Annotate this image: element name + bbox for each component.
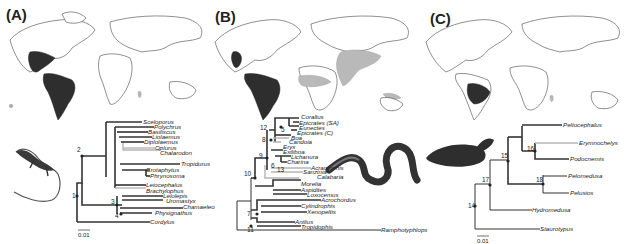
svg-text:0.01: 0.01 — [78, 232, 90, 238]
world-map-b — [215, 16, 408, 120]
svg-text:Epicrates (C): Epicrates (C) — [297, 129, 333, 136]
svg-text:1: 1 — [72, 192, 76, 199]
svg-text:Calabaria: Calabaria — [317, 173, 344, 180]
svg-text:Peltocephalus: Peltocephalus — [563, 121, 602, 128]
turtle-illustration-icon — [426, 138, 494, 166]
svg-text:Physignathus: Physignathus — [155, 209, 192, 216]
world-map-a — [9, 12, 202, 120]
panel-b-figure: 5 6 7 8 9 10 11 12 13 Corallus Epicrates… — [211, 0, 422, 244]
svg-text:7: 7 — [247, 210, 251, 217]
svg-text:Hydromedusa: Hydromedusa — [532, 206, 571, 213]
svg-text:5: 5 — [281, 126, 285, 133]
panel-a-figure: 1 2 3 4 Sceloporus Polychrus Basiliscus … — [0, 0, 211, 244]
svg-text:10: 10 — [244, 170, 252, 177]
svg-text:6: 6 — [271, 162, 275, 169]
svg-text:Staurotypus: Staurotypus — [540, 225, 573, 232]
phylogeny-tree-a: 1 2 3 4 Sceloporus Polychrus Basiliscus … — [72, 118, 215, 238]
svg-text:Ramphotyphlops: Ramphotyphlops — [381, 226, 427, 233]
svg-text:0.01: 0.01 — [477, 238, 489, 244]
svg-text:15: 15 — [501, 152, 509, 159]
svg-text:4: 4 — [115, 212, 119, 219]
svg-text:8: 8 — [262, 136, 266, 143]
svg-text:Charina: Charina — [287, 158, 309, 165]
svg-text:11: 11 — [247, 226, 254, 233]
svg-text:3: 3 — [111, 198, 115, 205]
panel-c-figure: 14 15 16 17 18 Peltocephalus Erymnochely… — [422, 0, 633, 244]
svg-text:18: 18 — [536, 176, 544, 183]
svg-text:Phrynosoma: Phrynosoma — [150, 172, 185, 179]
galapagos-dot-icon — [9, 104, 13, 108]
svg-text:9: 9 — [259, 152, 263, 159]
svg-text:14: 14 — [468, 202, 476, 209]
panel-b: (B) — [211, 0, 422, 244]
svg-text:Chalarodon: Chalarodon — [160, 149, 193, 156]
svg-text:Xenopeltis: Xenopeltis — [306, 208, 336, 215]
svg-text:16: 16 — [527, 145, 535, 152]
svg-text:Erymnochelys: Erymnochelys — [579, 139, 618, 146]
world-map-c — [426, 16, 619, 120]
svg-text:17: 17 — [482, 176, 490, 183]
svg-text:Pelomedusa: Pelomedusa — [568, 172, 603, 179]
panel-a: (A) — [0, 0, 211, 244]
panel-c: (C) — [422, 0, 633, 244]
svg-text:12: 12 — [260, 124, 268, 131]
svg-text:13: 13 — [277, 166, 285, 173]
svg-text:Tropidurus: Tropidurus — [181, 160, 210, 167]
svg-text:Cordylus: Cordylus — [150, 218, 174, 225]
svg-text:Pelusios: Pelusios — [570, 189, 593, 196]
phylogeny-tree-b: 5 6 7 8 9 10 11 12 13 Corallus Epicrates… — [237, 113, 427, 233]
lizard-illustration-icon — [14, 149, 60, 201]
svg-text:Tropidophis: Tropidophis — [301, 223, 333, 230]
svg-text:2: 2 — [77, 146, 81, 153]
svg-text:Podocnemis: Podocnemis — [570, 155, 604, 162]
